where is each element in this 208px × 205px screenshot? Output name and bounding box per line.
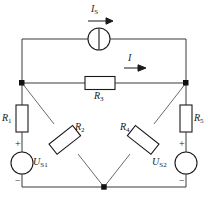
resistor-r4-body-group [127, 126, 159, 155]
us2-plus-sign: + [179, 139, 185, 149]
voltage-source-us1-label: US1 [33, 157, 48, 167]
resistor-r2-label: R2 [75, 122, 85, 132]
current-i-arrow-head-icon [138, 65, 146, 71]
resistor-r4-label: R4 [120, 122, 130, 132]
circuit-schematic-svg [0, 0, 208, 205]
resistor-r3-label: R3 [94, 91, 104, 101]
resistor-r5-body [180, 105, 192, 132]
us1-minus-sign: − [15, 176, 21, 186]
current-i-label: I [128, 53, 131, 63]
us2-minus-sign: − [179, 176, 185, 186]
voltage-source-us1-symbol [11, 152, 33, 174]
resistor-r5-label: R5 [194, 113, 204, 123]
current-is-label: IS [91, 4, 98, 14]
us1-plus-sign: + [15, 139, 21, 149]
resistor-r4-body [127, 126, 159, 155]
voltage-source-us2-label: US2 [152, 157, 167, 167]
circuit-diagram: IS I R3 R1 R5 R2 R4 US1 US2 + − + − [0, 0, 208, 205]
resistor-r1-body [16, 105, 28, 132]
current-is-arrow-head-icon [106, 18, 113, 24]
node-right [183, 80, 189, 86]
node-left [19, 80, 25, 86]
node-bottom [101, 184, 107, 190]
resistor-r3-body [85, 77, 115, 90]
wire-diagonal-left-lower [78, 154, 104, 187]
wire-diagonal-right-lower [104, 154, 130, 187]
voltage-source-us2-symbol [175, 152, 197, 174]
resistor-r1-label: R1 [2, 113, 12, 123]
